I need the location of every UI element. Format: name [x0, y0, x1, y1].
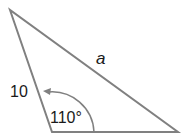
angle-label: 110°: [50, 110, 82, 126]
side-length-label: 10: [10, 84, 28, 100]
triangle-figure: [0, 0, 183, 138]
side-a-label: a: [96, 50, 105, 67]
triangle-diagram: a 10 110°: [0, 0, 183, 138]
arc-arrowhead-icon: [43, 88, 51, 95]
triangle-outline: [10, 10, 178, 132]
